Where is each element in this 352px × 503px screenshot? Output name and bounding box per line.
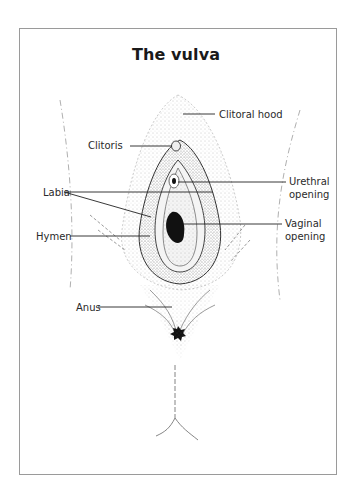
label-urethral-line2: opening: [289, 188, 330, 201]
label-clitoral-hood: Clitoral hood: [219, 108, 283, 121]
label-clitoris: Clitoris: [88, 139, 123, 152]
label-urethral-line1: Urethral: [289, 175, 330, 188]
label-vaginal-line2: opening: [285, 230, 325, 243]
label-vaginal-opening: Vaginal opening: [285, 217, 325, 243]
label-labia: Labia: [43, 186, 70, 199]
gluteal-cleft: [156, 365, 198, 440]
clitoris-shape: [172, 141, 181, 151]
label-vaginal-line1: Vaginal: [285, 217, 325, 230]
urethral-opening-dot: [172, 178, 176, 184]
vulva-illustration: [0, 0, 352, 503]
label-urethral-opening: Urethral opening: [289, 175, 330, 201]
label-hymen: Hymen: [36, 230, 72, 243]
label-anus: Anus: [76, 301, 101, 314]
